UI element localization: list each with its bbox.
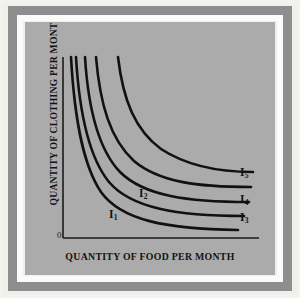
- x-axis-title: QUANTITY OF FOOD PER MONTH: [25, 251, 275, 262]
- indifference-curves-group: [71, 57, 253, 230]
- curve-label-i4: I4: [240, 194, 248, 206]
- curve-label-i3-letter: I: [240, 211, 244, 223]
- curve-label-i2-letter: I: [139, 187, 143, 199]
- curve-label-i1-letter: I: [109, 208, 113, 220]
- curve-label-i2: I2: [139, 188, 147, 200]
- origin-label: 0: [57, 230, 62, 240]
- curve-label-i5-letter: I: [240, 166, 244, 178]
- curve-label-i5: I5: [240, 167, 248, 179]
- curve-label-i3-sub: 3: [245, 216, 249, 225]
- y-axis-title: QUANTITY OF CLOTHING PER MONTH: [48, 26, 59, 206]
- curve-label-i2-sub: 2: [144, 192, 148, 201]
- curve-label-i5-sub: 5: [245, 171, 249, 180]
- curve-label-i1: I1: [109, 209, 117, 221]
- chart-plot-svg: [25, 22, 275, 275]
- indifference-curve-chart: QUANTITY OF CLOTHING PER MONTH QUANTITY …: [25, 22, 275, 275]
- curve-label-i3: I3: [240, 212, 248, 224]
- indifference-curve-i5: [118, 57, 253, 172]
- curve-label-i4-sub: 4: [245, 198, 249, 207]
- indifference-curve-i3: [85, 57, 249, 202]
- curve-label-i1-sub: 1: [114, 213, 118, 222]
- figure-frame: QUANTITY OF CLOTHING PER MONTH QUANTITY …: [0, 0, 300, 298]
- curve-label-i4-letter: I: [240, 193, 244, 205]
- indifference-curve-i4: [96, 57, 251, 187]
